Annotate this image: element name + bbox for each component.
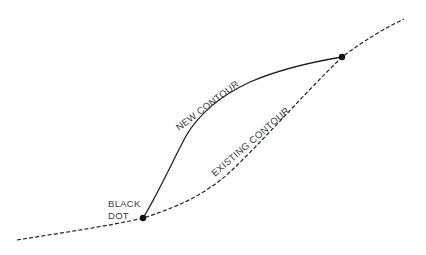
new-contour-line bbox=[143, 57, 342, 218]
existing-contour-label: EXISTING CONTOUR bbox=[209, 105, 291, 179]
new-contour-label: NEW CONTOUR bbox=[174, 78, 241, 133]
black-dot-label-line1: BLACK bbox=[108, 198, 141, 209]
existing-contour-line bbox=[17, 19, 404, 240]
contour-diagram: NEW CONTOUR EXISTING CONTOUR BLACK DOT bbox=[0, 0, 426, 255]
black-dot-label-line2: DOT bbox=[108, 210, 129, 221]
black-dot-lower bbox=[140, 215, 146, 221]
black-dot-upper bbox=[339, 54, 345, 60]
